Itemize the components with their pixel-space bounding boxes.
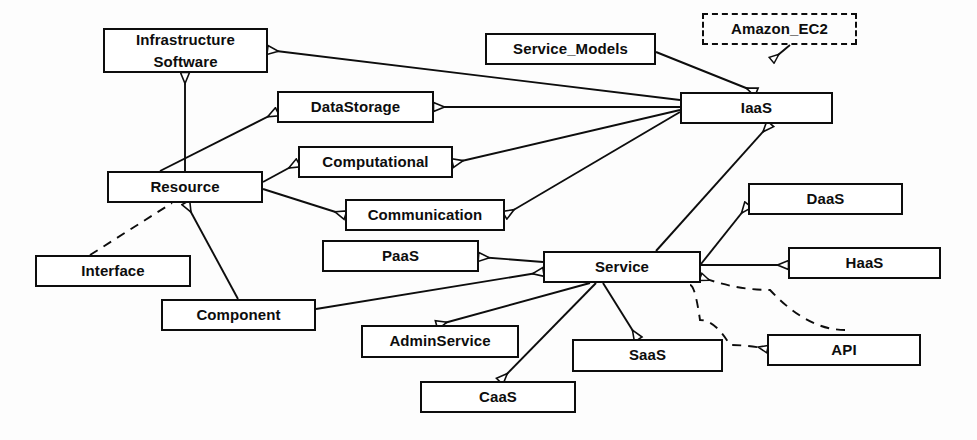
- class-box-communication[interactable]: Communication: [345, 199, 505, 231]
- class-label: HaaS: [846, 254, 884, 273]
- class-label: Component: [196, 306, 280, 325]
- class-box-computational[interactable]: Computational: [298, 146, 453, 178]
- class-box-api[interactable]: API: [767, 334, 921, 366]
- class-box-iaas[interactable]: IaaS: [680, 92, 833, 124]
- class-label-line2: Software: [153, 51, 217, 73]
- edge-service-to-adminservice: [437, 283, 590, 325]
- class-box-resource[interactable]: Resource: [107, 171, 263, 203]
- edge-iaas-to-communication: [505, 112, 680, 215]
- class-label: SaaS: [629, 346, 666, 365]
- class-label: Service: [595, 258, 649, 277]
- class-box-infrastructure_software[interactable]: InfrastructureSoftware: [103, 28, 268, 73]
- class-box-service[interactable]: Service: [543, 251, 701, 283]
- class-box-component[interactable]: Component: [161, 299, 316, 331]
- edge-service-to-daas: [701, 205, 748, 264]
- edge-component-to-resource: [186, 203, 238, 299]
- class-box-service_models[interactable]: Service_Models: [485, 33, 656, 65]
- edge-interface-to-resource: [90, 203, 172, 255]
- class-label: Amazon_EC2: [731, 20, 828, 39]
- class-label: Communication: [368, 206, 483, 225]
- class-label: AdminService: [389, 332, 490, 351]
- class-box-datastorage[interactable]: DataStorage: [277, 91, 434, 123]
- class-box-adminservice[interactable]: AdminService: [361, 325, 519, 358]
- class-box-daas[interactable]: DaaS: [748, 183, 903, 215]
- class-label: PaaS: [382, 247, 419, 266]
- class-box-saas[interactable]: SaaS: [572, 339, 723, 372]
- class-label: DataStorage: [311, 98, 400, 117]
- class-label: API: [831, 341, 856, 360]
- class-label: IaaS: [741, 99, 772, 118]
- class-label: Computational: [322, 153, 428, 172]
- edge-resource-to-communication: [263, 189, 345, 215]
- edge-service_models-to-iaas: [656, 52, 756, 92]
- class-box-paas[interactable]: PaaS: [322, 240, 479, 272]
- edge-resource-to-datastorage: [160, 112, 277, 171]
- class-label: Interface: [81, 262, 144, 281]
- edge-iaas-to-computational: [453, 110, 680, 163]
- uml-class-diagram: InfrastructureSoftwareService_ModelsAmaz…: [0, 0, 977, 440]
- class-box-haas[interactable]: HaaS: [788, 247, 941, 279]
- edge-service-to-saas: [603, 283, 638, 339]
- class-label: Service_Models: [513, 40, 628, 59]
- class-label-line1: Infrastructure: [136, 29, 235, 51]
- class-label: DaaS: [807, 190, 845, 209]
- class-box-amazon_ec2[interactable]: Amazon_EC2: [702, 13, 857, 45]
- edge-service-to-paas: [479, 257, 543, 262]
- edge-amazon_ec2-to-iaas: [772, 45, 790, 60]
- edge-api-to-service: [701, 277, 845, 330]
- class-box-interface[interactable]: Interface: [35, 255, 191, 287]
- edge-resource-to-computational: [263, 163, 298, 182]
- class-label: CaaS: [479, 388, 517, 407]
- class-box-caas[interactable]: CaaS: [420, 381, 576, 413]
- edge-component-to-service: [316, 272, 543, 309]
- class-label: Resource: [150, 178, 219, 197]
